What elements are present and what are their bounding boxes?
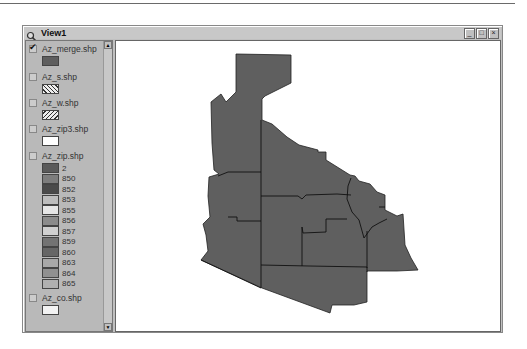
legend-swatch [42, 163, 59, 173]
legend-label: 863 [62, 258, 75, 267]
hatch-symbol [42, 110, 59, 120]
legend-label: 864 [62, 269, 75, 278]
legend-swatch [42, 195, 59, 205]
layer-checkbox[interactable] [29, 152, 37, 160]
layer-checkbox[interactable] [29, 73, 37, 81]
layer-symbol [42, 56, 59, 66]
close-button[interactable]: × [488, 28, 499, 39]
legend-item: 855 [42, 205, 75, 215]
legend-label: 865 [62, 279, 75, 288]
map-canvas[interactable] [115, 40, 501, 332]
scroll-up-button[interactable]: ▲ [104, 41, 112, 49]
table-of-contents: Az_merge.shp Az_s.shp Az_w.shp Az_zip3.s… [25, 40, 113, 332]
legend-swatch [42, 184, 59, 194]
legend-swatch [42, 174, 59, 184]
legend-label: 2 [62, 164, 66, 173]
layer-checkbox[interactable] [29, 125, 37, 133]
layer-name: Az_co.shp [42, 293, 82, 303]
legend-label: 855 [62, 206, 75, 215]
legend-swatch [42, 226, 59, 236]
legend-item: 850 [42, 174, 75, 184]
hatch-symbol [42, 84, 59, 94]
legend-swatch [42, 279, 59, 289]
layer-symbol [42, 136, 59, 146]
layer-az-co[interactable]: Az_co.shp [29, 293, 82, 303]
legend-item: 857 [42, 226, 75, 236]
legend-item: 859 [42, 237, 75, 247]
layer-checkbox[interactable] [29, 294, 37, 302]
minimize-button[interactable]: _ [464, 28, 475, 39]
view-window: View1 _ □ × Az_merge.shp Az_s.shp Az_w.s… [22, 25, 503, 333]
legend-swatch [42, 237, 59, 247]
maximize-button[interactable]: □ [476, 28, 487, 39]
legend-label: 850 [62, 174, 75, 183]
layer-az-w[interactable]: Az_w.shp [29, 98, 78, 108]
layer-az-zip[interactable]: Az_zip.shp [29, 151, 84, 161]
legend-item: 853 [42, 195, 75, 205]
scroll-down-button[interactable]: ▼ [104, 323, 112, 331]
legend-swatch [42, 216, 59, 226]
legend-item: 852 [42, 184, 75, 194]
layer-name: Az_zip3.shp [42, 124, 88, 134]
legend-swatch [42, 268, 59, 278]
layer-az-zip3[interactable]: Az_zip3.shp [29, 124, 88, 134]
layer-name: Az_merge.shp [42, 44, 97, 54]
layer-az-s[interactable]: Az_s.shp [29, 72, 77, 82]
legend-label: 853 [62, 195, 75, 204]
legend-swatch [42, 258, 59, 268]
legend-item: 863 [42, 258, 75, 268]
legend-item: 2 [42, 163, 66, 173]
document-rule [0, 3, 515, 4]
layer-checkbox[interactable] [29, 99, 37, 107]
layer-checkbox[interactable] [29, 45, 37, 53]
layer-name: Az_zip.shp [42, 151, 84, 161]
layer-az-merge[interactable]: Az_merge.shp [29, 44, 97, 54]
legend-label: 860 [62, 248, 75, 257]
arizona-map [116, 41, 502, 333]
legend-label: 856 [62, 216, 75, 225]
legend-swatch [42, 205, 59, 215]
legend-label: 857 [62, 227, 75, 236]
legend-item: 864 [42, 268, 75, 278]
legend-label: 859 [62, 237, 75, 246]
layer-name: Az_s.shp [42, 72, 77, 82]
view-magnifier-icon [26, 28, 37, 39]
toc-scrollbar[interactable]: ▲ ▼ [103, 41, 112, 331]
legend-item: 856 [42, 216, 75, 226]
legend-item: 865 [42, 279, 75, 289]
layer-symbol [42, 305, 59, 315]
legend-label: 852 [62, 185, 75, 194]
legend-swatch [42, 247, 59, 257]
legend-item: 860 [42, 247, 75, 257]
window-title: View1 [41, 28, 66, 38]
title-bar[interactable]: View1 _ □ × [24, 27, 501, 39]
layer-name: Az_w.shp [42, 98, 78, 108]
